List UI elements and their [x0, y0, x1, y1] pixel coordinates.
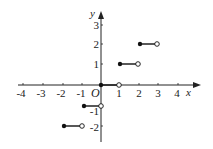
x-axis-label: x: [185, 86, 191, 98]
x-tick-label: -2: [56, 87, 65, 99]
open-dot-icon: [80, 124, 85, 129]
y-tick-label: 3: [94, 19, 100, 31]
y-tick-label: 2: [94, 38, 100, 50]
x-tick-label: 2: [136, 87, 142, 99]
y-axis-label: y: [89, 7, 95, 19]
x-axis-arrow-icon: [193, 82, 201, 88]
open-dot-icon: [155, 42, 160, 47]
y-tick-label: 1: [94, 58, 100, 70]
closed-dot-icon: [138, 42, 142, 46]
closed-dot-icon: [62, 124, 66, 128]
y-tick-labels: 3 2 1 -1 -2: [90, 19, 100, 133]
step-function-graph: -4 -3 -2 -1 1 2 3 4 x O 3 2 1 -1 -2 y: [0, 0, 213, 149]
closed-dot-icon: [82, 104, 86, 108]
y-axis-arrow-icon: [98, 11, 104, 19]
x-tick-label: 1: [116, 87, 122, 99]
open-dot-icon: [117, 83, 122, 88]
y-tick-label: -2: [90, 121, 99, 133]
x-tick-label: -3: [36, 87, 46, 99]
open-dot-icon: [136, 62, 141, 67]
y-tick-label: -1: [90, 105, 99, 117]
x-tick-label: -4: [16, 87, 26, 99]
closed-dot-icon: [99, 83, 103, 87]
open-dot-icon: [99, 104, 104, 109]
x-tick-label: 3: [155, 87, 161, 99]
x-tick-label: -1: [76, 87, 85, 99]
x-tick-label: 4: [174, 87, 180, 99]
closed-dot-icon: [118, 62, 122, 66]
origin-label: O: [91, 86, 100, 100]
